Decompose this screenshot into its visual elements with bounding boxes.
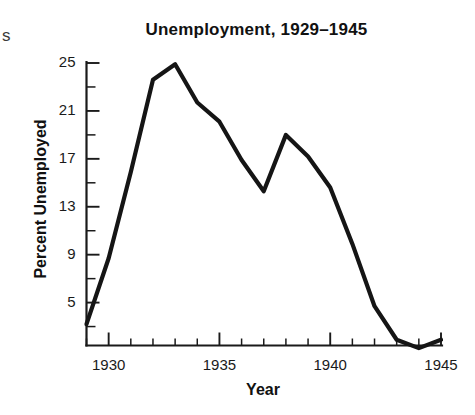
axis-ticks xyxy=(87,63,442,346)
axes-lines xyxy=(87,62,443,346)
chart-figure: s Unemployment, 1929–1945 Percent Unempl… xyxy=(0,0,475,415)
plot-area xyxy=(0,0,475,415)
data-line-unemployment xyxy=(87,64,442,348)
